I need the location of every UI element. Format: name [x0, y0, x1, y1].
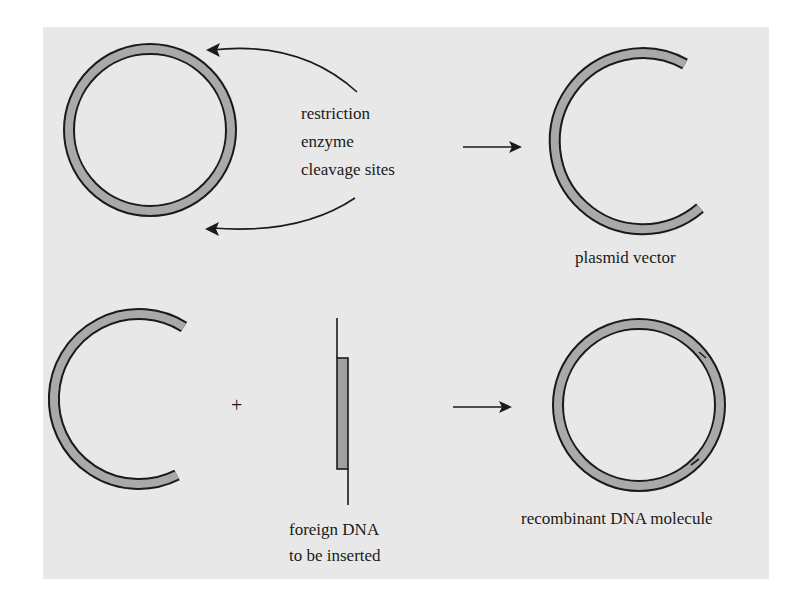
cleavage-label-line1: restriction	[301, 103, 370, 124]
reaction-arrow-1	[463, 141, 522, 153]
cleavage-arrow-top	[206, 43, 357, 92]
foreign-dna-label-line2: to be inserted	[289, 545, 381, 566]
cleavage-label-line2: enzyme	[301, 131, 354, 152]
recombinant-dna-molecule	[558, 324, 720, 486]
cleavage-label-line3: cleavage sites	[301, 159, 395, 180]
plus-symbol: +	[231, 394, 242, 417]
foreign-dna-label-line1: foreign DNA	[289, 519, 379, 540]
cleavage-arrow-bottom	[205, 198, 355, 236]
intact-plasmid	[69, 49, 231, 211]
plasmid-vector-label: plasmid vector	[575, 247, 676, 268]
foreign-dna-insert	[337, 318, 348, 505]
plasmid-vector-copy	[54, 314, 184, 484]
recombinant-dna-label: recombinant DNA molecule	[521, 508, 713, 529]
plasmid-vector	[555, 53, 700, 229]
reaction-arrow-2	[453, 401, 512, 413]
